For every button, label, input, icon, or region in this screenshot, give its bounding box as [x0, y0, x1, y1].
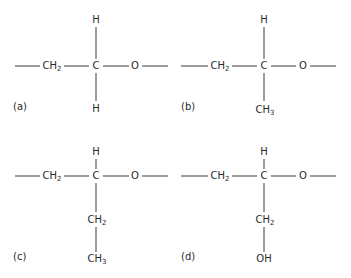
panel-label-d: (d) [181, 252, 195, 262]
atom-h-top: H [260, 147, 268, 157]
atom-o: O [131, 171, 139, 181]
atom-h-top: H [92, 147, 100, 157]
atom-c-center: C [261, 171, 268, 181]
panel-label-a: (a) [13, 102, 27, 112]
atom-o: O [131, 61, 139, 71]
atom-h-top: H [92, 15, 100, 25]
panel-label-b: (b) [181, 102, 195, 112]
group-ch2-left: CH2 [43, 171, 62, 181]
group-oh-terminal: OH [256, 254, 271, 264]
panel-label-c: (c) [13, 252, 26, 262]
group-ch2-left: CH2 [211, 61, 230, 71]
bonds-b [168, 0, 343, 139]
group-ch3-bottom: CH3 [256, 105, 275, 115]
atom-o: O [299, 61, 307, 71]
group-ch3-terminal: CH3 [88, 254, 107, 264]
atom-o: O [299, 171, 307, 181]
atom-c-center: C [93, 61, 100, 71]
atom-c-center: C [261, 61, 268, 71]
group-ch2-branch: CH2 [256, 215, 275, 225]
structure-a: H CH2 C O H (a) [0, 0, 175, 139]
bonds-a [0, 0, 175, 139]
group-ch2-left: CH2 [211, 171, 230, 181]
group-ch2-left: CH2 [43, 61, 62, 71]
structure-d: H CH2 C O CH2 OH (d) [168, 132, 343, 271]
atom-h-top: H [260, 15, 268, 25]
structure-b: H CH2 C O CH3 (b) [168, 0, 343, 139]
structure-c: H CH2 C O CH2 CH3 (c) [0, 132, 175, 271]
atom-h-bottom: H [92, 104, 100, 114]
group-ch2-branch: CH2 [88, 215, 107, 225]
atom-c-center: C [93, 171, 100, 181]
